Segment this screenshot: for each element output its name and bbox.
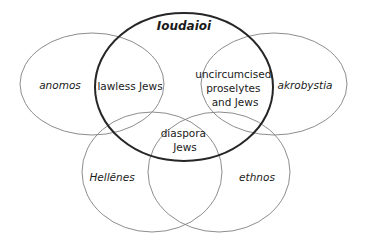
intersection-line: diaspora xyxy=(161,127,206,139)
diagram-background xyxy=(0,0,366,246)
intersection-line: Jews xyxy=(172,141,197,153)
venn-diagram: Ioudaioi anomos akrobystia Hellēnes ethn… xyxy=(0,0,366,246)
intersection-label-lawless-jews: lawless Jews xyxy=(97,80,162,92)
set-label-hellenes: Hellēnes xyxy=(89,171,135,183)
intersection-line: lawless Jews xyxy=(97,80,162,92)
set-label-akrobystia: akrobystia xyxy=(277,79,332,91)
venn-canvas: Ioudaioi anomos akrobystia Hellēnes ethn… xyxy=(0,0,366,246)
intersection-line: and Jews xyxy=(212,96,259,108)
set-label-ethnos: ethnos xyxy=(239,171,275,183)
intersection-line: uncircumcised xyxy=(195,68,271,80)
set-label-ioudaioi: Ioudaioi xyxy=(157,19,212,33)
set-label-anomos: anomos xyxy=(39,79,81,91)
intersection-line: proselytes xyxy=(206,82,260,94)
